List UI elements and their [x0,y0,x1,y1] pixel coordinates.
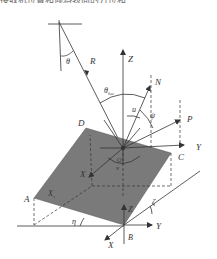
label-a: A [23,194,30,204]
label-p: P [186,114,193,124]
label-y-bottom: Y [156,221,162,231]
inclined-plane [34,128,171,225]
label-r: R [89,56,96,66]
label-o: O [117,157,122,163]
label-b: B [128,233,133,242]
label-u: u [132,105,136,114]
label-theta-loc: θloc [104,86,115,96]
label-x-bottom: X [107,240,114,250]
label-y-mid: Y [196,142,202,152]
label-n: N [154,77,162,87]
inclined-surface-diagram: R θ θloc Z N u ψ P Y D C X O v A Xs η ζ … [0,0,217,259]
label-c: C [178,152,185,162]
ray-r [59,22,123,148]
label-eta: η [72,217,76,226]
receiver-reference [48,20,82,71]
label-psi: ψ [150,111,156,120]
label-z-bottom: Z [128,205,133,214]
label-z-top: Z [128,54,134,64]
label-theta: θ [66,57,70,66]
label-d: D [77,118,85,128]
label-x-mid: X [79,169,86,179]
